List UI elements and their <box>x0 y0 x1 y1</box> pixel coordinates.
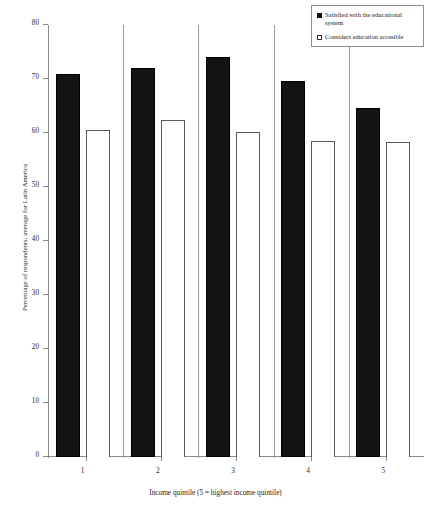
group-separator <box>349 25 350 458</box>
bar <box>131 68 155 457</box>
y-tick: 50 <box>43 186 48 187</box>
y-tick: 70 <box>43 78 48 79</box>
bar <box>311 141 335 457</box>
y-tick-label: 0 <box>35 451 39 459</box>
y-tick: 40 <box>43 240 48 241</box>
x-tick <box>161 457 162 461</box>
plot-area: 01020304050607080 12345 <box>48 25 424 457</box>
y-tick-label: 40 <box>32 235 39 243</box>
y-tick-label: 70 <box>32 73 39 81</box>
y-tick: 10 <box>43 402 48 403</box>
x-tick-label: 4 <box>288 466 328 475</box>
y-axis-line <box>48 25 49 458</box>
bar <box>161 120 185 457</box>
y-tick: 20 <box>43 348 48 349</box>
y-tick-label: 20 <box>32 343 39 351</box>
y-tick: 80 <box>43 24 48 25</box>
y-tick-label: 30 <box>32 289 39 297</box>
y-axis-title: Percentage of respondents, average for L… <box>21 118 28 358</box>
y-tick-label: 80 <box>32 19 39 27</box>
legend-label: Considers education accesible <box>325 33 403 41</box>
group-separator <box>274 25 275 458</box>
x-tick <box>311 457 312 461</box>
open-square-icon <box>317 35 322 40</box>
y-tick: 30 <box>43 294 48 295</box>
x-tick <box>386 457 387 461</box>
bar <box>56 74 80 457</box>
y-tick-label: 60 <box>32 127 39 135</box>
bar <box>356 108 380 457</box>
y-tick: 60 <box>43 132 48 133</box>
y-tick-label: 50 <box>32 181 39 189</box>
legend-item-satisfied: Satisfied with the educational system <box>317 11 418 27</box>
x-tick <box>86 457 87 461</box>
legend-item-accessible: Considers education accesible <box>317 33 418 41</box>
x-tick-label: 5 <box>363 466 403 475</box>
x-tick-label: 2 <box>138 466 178 475</box>
x-axis-title: Income quintile (5 = highest income quin… <box>0 488 431 497</box>
x-tick-label: 3 <box>213 466 253 475</box>
chart-legend: Satisfied with the educational system Co… <box>311 5 424 47</box>
filled-square-icon <box>317 13 322 18</box>
bar <box>206 57 230 457</box>
bar <box>386 142 410 457</box>
y-tick-label: 10 <box>32 397 39 405</box>
group-separator <box>123 25 124 458</box>
x-tick <box>236 457 237 461</box>
y-tick: 0 <box>43 456 48 457</box>
bar <box>281 81 305 457</box>
legend-label: Satisfied with the educational system <box>325 11 418 27</box>
group-separator <box>198 25 199 458</box>
bar <box>86 130 110 457</box>
x-tick-label: 1 <box>63 466 103 475</box>
bar <box>236 132 260 457</box>
chart-figure: Percentage of respondents, average for L… <box>0 0 431 509</box>
